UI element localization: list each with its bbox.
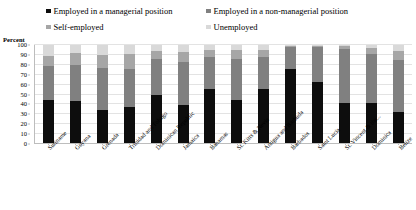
legend-label-non-managerial: Employed in a non-managerial position xyxy=(214,6,349,16)
legend-label-self-employed: Self-employed xyxy=(54,22,104,32)
bar-segment[interactable] xyxy=(70,53,81,65)
y-axis-tick-label: 50 xyxy=(21,91,28,98)
bar-segment[interactable] xyxy=(366,54,377,103)
bar-segment[interactable] xyxy=(393,112,404,143)
bar-segment[interactable] xyxy=(312,82,323,143)
bar-slot xyxy=(304,45,331,143)
bar-segment[interactable] xyxy=(339,103,350,143)
y-axis-tick xyxy=(28,64,30,65)
bar-segment[interactable] xyxy=(70,65,81,101)
bar-segment[interactable] xyxy=(312,47,323,82)
stacked-bar[interactable] xyxy=(393,45,404,143)
bar-segment[interactable] xyxy=(393,51,404,60)
legend-row-2: Self-employed Unemployed xyxy=(46,22,416,38)
y-axis-tick xyxy=(28,104,30,105)
stacked-bar[interactable] xyxy=(312,45,323,143)
y-axis-tick xyxy=(28,45,30,46)
legend-swatch-unemployed xyxy=(206,25,211,30)
bar-segment[interactable] xyxy=(124,54,135,69)
bar-slot xyxy=(116,45,143,143)
y-axis-tick-label: 0 xyxy=(24,141,27,148)
y-axis-tick-label: 60 xyxy=(21,81,28,88)
bar-segment[interactable] xyxy=(43,45,54,56)
y-axis-tick xyxy=(28,84,30,85)
legend-item-unemployed: Unemployed xyxy=(206,22,416,32)
stacked-bar[interactable] xyxy=(43,45,54,143)
y-axis-tick-label: 20 xyxy=(21,121,28,128)
legend-item-managerial: Employed in a managerial position xyxy=(46,6,206,16)
y-axis-tick xyxy=(28,144,30,145)
bar-slot xyxy=(35,45,62,143)
bar-segment[interactable] xyxy=(151,51,162,59)
bar-segment[interactable] xyxy=(97,68,108,110)
bar-segment[interactable] xyxy=(124,45,135,54)
y-axis-labels: 0102030405060708090100 xyxy=(0,45,30,144)
bar-segment[interactable] xyxy=(124,69,135,107)
stacked-bar[interactable] xyxy=(70,45,81,143)
legend-label-unemployed: Unemployed xyxy=(214,22,258,32)
bar-segment[interactable] xyxy=(43,66,54,100)
bar-segment[interactable] xyxy=(178,45,189,52)
bar-segment[interactable] xyxy=(43,100,54,143)
legend-item-non-managerial: Employed in a non-managerial position xyxy=(206,6,416,16)
legend-swatch-managerial xyxy=(46,9,51,14)
bar-segment[interactable] xyxy=(70,45,81,53)
bar-segment[interactable] xyxy=(285,69,296,143)
bar-slot xyxy=(223,45,250,143)
stacked-bar[interactable] xyxy=(97,45,108,143)
legend-row-1: Employed in a managerial position Employ… xyxy=(46,6,416,22)
y-axis-tick xyxy=(28,74,30,75)
bar-segment[interactable] xyxy=(178,52,189,62)
stacked-bar-chart: Employed in a managerial position Employ… xyxy=(0,0,416,210)
chart-legend: Employed in a managerial position Employ… xyxy=(46,6,416,38)
y-axis-tick-label: 70 xyxy=(21,71,28,78)
bar-group xyxy=(35,45,412,143)
bar-segment[interactable] xyxy=(178,62,189,105)
bar-segment[interactable] xyxy=(204,50,215,57)
bar-segment[interactable] xyxy=(204,89,215,143)
bar-segment[interactable] xyxy=(124,107,135,143)
bar-segment[interactable] xyxy=(97,45,108,55)
bar-segment[interactable] xyxy=(204,57,215,89)
bar-slot xyxy=(62,45,89,143)
y-axis-tick xyxy=(28,94,30,95)
y-axis-tick-label: 30 xyxy=(21,111,28,118)
y-axis-tick-label: 80 xyxy=(21,62,28,69)
y-axis-tick-label: 10 xyxy=(21,131,28,138)
legend-swatch-self-employed xyxy=(46,25,51,30)
stacked-bar[interactable] xyxy=(204,45,215,143)
y-axis-tick xyxy=(28,134,30,135)
bar-slot xyxy=(197,45,224,143)
bar-segment[interactable] xyxy=(258,50,269,57)
y-axis-tick xyxy=(28,114,30,115)
y-axis-tick-label: 40 xyxy=(21,101,28,108)
legend-swatch-non-managerial xyxy=(206,9,211,14)
bar-segment[interactable] xyxy=(231,100,242,143)
bar-slot xyxy=(89,45,116,143)
bar-segment[interactable] xyxy=(258,57,269,89)
stacked-bar[interactable] xyxy=(231,45,242,143)
legend-label-managerial: Employed in a managerial position xyxy=(54,6,173,16)
y-axis-tick-label: 90 xyxy=(21,52,28,59)
bar-segment[interactable] xyxy=(97,55,108,68)
bar-segment[interactable] xyxy=(70,101,81,143)
bar-segment[interactable] xyxy=(339,49,350,103)
bar-segment[interactable] xyxy=(393,60,404,112)
x-axis-labels: SurinameGuyanaGrenadaTrinidad and Tobago… xyxy=(34,145,412,209)
bar-segment[interactable] xyxy=(231,50,242,59)
bar-segment[interactable] xyxy=(43,56,54,66)
y-axis-tick xyxy=(28,124,30,125)
y-axis-tick xyxy=(28,54,30,55)
stacked-bar[interactable] xyxy=(339,45,350,143)
bar-segment[interactable] xyxy=(231,59,242,100)
y-axis-tick-label: 100 xyxy=(17,42,27,49)
stacked-bar[interactable] xyxy=(124,45,135,143)
legend-item-self-employed: Self-employed xyxy=(46,22,206,32)
bar-segment[interactable] xyxy=(151,59,162,95)
bar-segment[interactable] xyxy=(285,47,296,69)
bar-slot xyxy=(385,45,412,143)
